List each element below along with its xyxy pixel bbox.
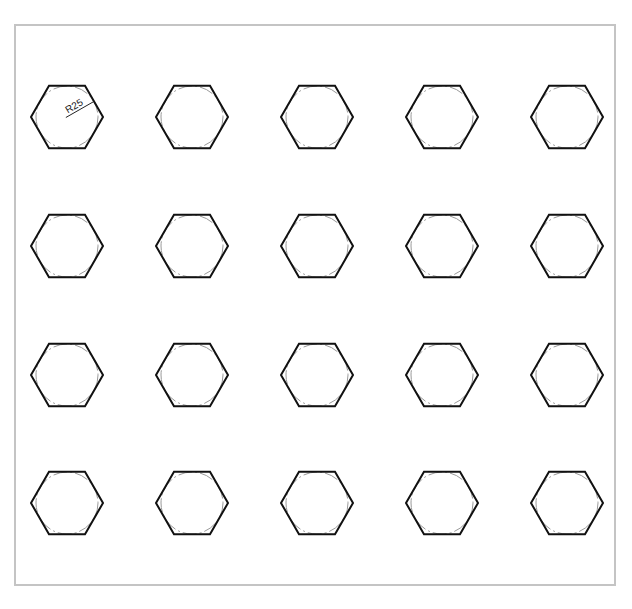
hexagon-shape — [531, 344, 603, 406]
hexagon-shape — [156, 472, 228, 534]
hexagon-shape — [156, 86, 228, 148]
inscribed-circle — [161, 344, 223, 406]
inscribed-circle — [286, 86, 348, 148]
inscribed-circle — [411, 86, 473, 148]
hex-grid-drawing: R25 — [0, 0, 632, 609]
inscribed-circle — [36, 215, 98, 277]
hexagon-outline — [531, 215, 603, 277]
hexagon-shape — [281, 86, 353, 148]
hexagon-shape — [281, 344, 353, 406]
hexagon-outline — [31, 215, 103, 277]
inscribed-circle — [161, 472, 223, 534]
hexagon-shape — [531, 215, 603, 277]
inscribed-circle — [36, 472, 98, 534]
inscribed-circle — [161, 86, 223, 148]
hexagon-outline — [531, 86, 603, 148]
hexagon-outline — [281, 215, 353, 277]
hexagon-shape — [531, 472, 603, 534]
hexagon-outline — [156, 86, 228, 148]
inscribed-circle — [286, 215, 348, 277]
inscribed-circle — [411, 344, 473, 406]
hexagon-outline — [281, 86, 353, 148]
hexagon-outline — [281, 472, 353, 534]
hexagon-shape — [281, 472, 353, 534]
hexagon-shape — [31, 472, 103, 534]
inscribed-circle — [411, 215, 473, 277]
inscribed-circle — [286, 472, 348, 534]
inscribed-circle — [286, 344, 348, 406]
hexagon-shape — [406, 215, 478, 277]
hexagon-shape — [531, 86, 603, 148]
hexagon-shape: R25 — [31, 86, 103, 148]
inscribed-circle — [411, 472, 473, 534]
hexagon-outline — [156, 472, 228, 534]
inscribed-circle — [536, 86, 598, 148]
hexagon-outline — [281, 344, 353, 406]
hexagon-outline — [406, 86, 478, 148]
inscribed-circle — [161, 215, 223, 277]
hexagon-outline — [406, 472, 478, 534]
hexagon-outline — [31, 472, 103, 534]
hexagon-outline — [531, 344, 603, 406]
hexagon-shape — [31, 344, 103, 406]
hexagon-shape — [31, 215, 103, 277]
inscribed-circle — [536, 344, 598, 406]
inscribed-circle — [36, 344, 98, 406]
hexagon-outline — [531, 472, 603, 534]
hexagon-outline — [156, 344, 228, 406]
hexagon-outline — [406, 215, 478, 277]
hexagon-shape — [281, 215, 353, 277]
hexagon-shape — [156, 215, 228, 277]
hexagon-outline — [31, 344, 103, 406]
inscribed-circle — [536, 472, 598, 534]
hexagon-shape — [156, 344, 228, 406]
hexagon-shape — [406, 472, 478, 534]
hexagon-shape — [406, 344, 478, 406]
hexagon-shape — [406, 86, 478, 148]
hexagon-outline — [156, 215, 228, 277]
hexagon-outline — [406, 344, 478, 406]
inscribed-circle — [536, 215, 598, 277]
